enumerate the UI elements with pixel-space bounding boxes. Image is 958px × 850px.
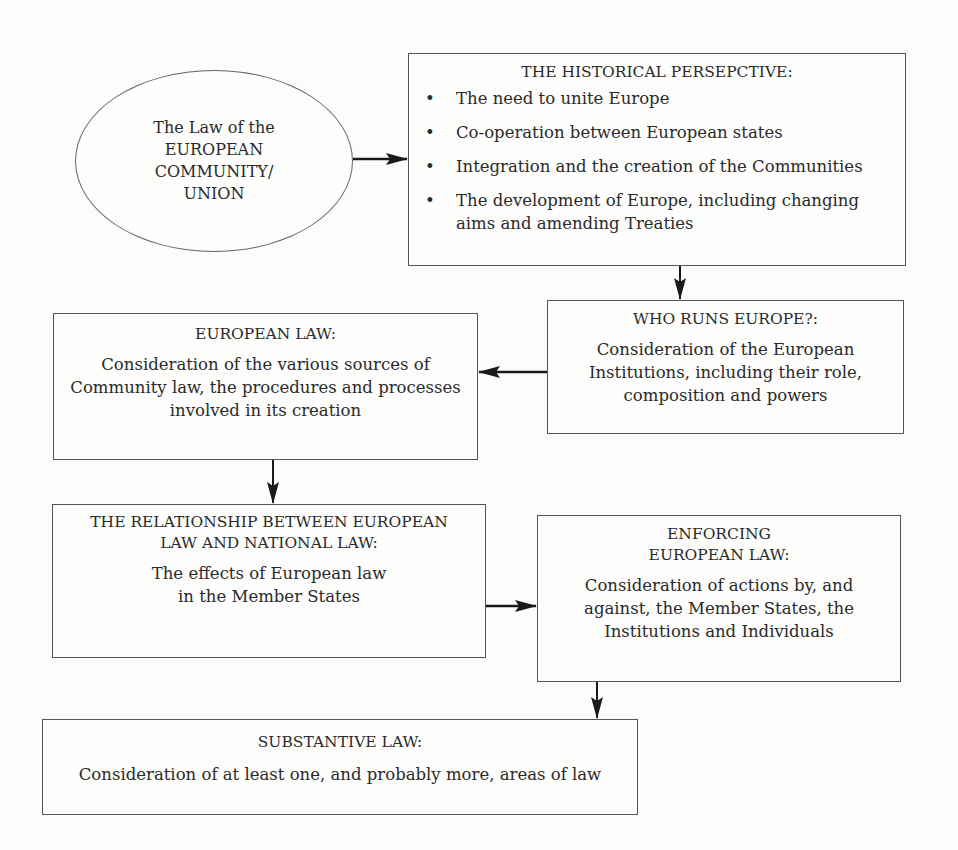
bullet-text: The development of Europe, including cha… <box>456 191 859 233</box>
relationship-title: THE RELATIONSHIP BETWEEN EUROPEAN LAW AN… <box>53 512 485 554</box>
substantive-law-box: SUBSTANTIVE LAW: Consideration of at lea… <box>42 719 638 815</box>
list-item: •Co-operation between European states <box>409 121 905 144</box>
relationship-box: THE RELATIONSHIP BETWEEN EUROPEAN LAW AN… <box>52 504 486 658</box>
enforcing-title: ENFORCING EUROPEAN LAW: <box>538 524 900 566</box>
enforcing-box: ENFORCING EUROPEAN LAW: Consideration of… <box>537 515 901 682</box>
bullet-text: The need to unite Europe <box>456 89 669 108</box>
bullet-icon: • <box>425 155 435 178</box>
historical-bullet-list: •The need to unite Europe •Co-operation … <box>409 87 905 235</box>
european-law-body: Consideration of the various sources of … <box>54 353 477 422</box>
who-runs-title: WHO RUNS EUROPE?: <box>548 309 903 330</box>
bullet-icon: • <box>425 87 435 110</box>
bullet-text: Co-operation between European states <box>456 123 783 142</box>
bullet-text: Integration and the creation of the Comm… <box>456 157 863 176</box>
european-law-title: EUROPEAN LAW: <box>54 324 477 345</box>
historical-title: THE HISTORICAL PERSEPCTIVE: <box>409 62 905 83</box>
start-node-ellipse: The Law of the EUROPEAN COMMUNITY/ UNION <box>75 70 353 252</box>
relationship-body: The effects of European law in the Membe… <box>53 562 485 608</box>
who-runs-body: Consideration of the European Institutio… <box>548 338 903 407</box>
substantive-title: SUBSTANTIVE LAW: <box>43 732 637 753</box>
list-item: •The development of Europe, including ch… <box>409 189 905 235</box>
who-runs-europe-box: WHO RUNS EUROPE?: Consideration of the E… <box>547 300 904 434</box>
bullet-icon: • <box>425 121 435 144</box>
list-item: •Integration and the creation of the Com… <box>409 155 905 178</box>
historical-perspective-box: THE HISTORICAL PERSEPCTIVE: •The need to… <box>408 53 906 266</box>
list-item: •The need to unite Europe <box>409 87 905 110</box>
substantive-body: Consideration of at least one, and proba… <box>43 763 637 786</box>
start-node-label: The Law of the EUROPEAN COMMUNITY/ UNION <box>144 117 284 205</box>
bullet-icon: • <box>425 189 435 212</box>
european-law-box: EUROPEAN LAW: Consideration of the vario… <box>53 313 478 460</box>
enforcing-body: Consideration of actions by, and against… <box>538 574 900 643</box>
